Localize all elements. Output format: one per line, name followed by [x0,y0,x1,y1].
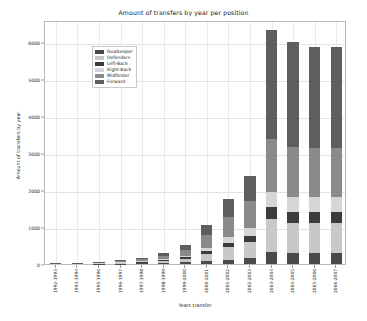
bar-segment[interactable] [244,242,255,258]
legend-label: Goalkeeper [107,49,133,55]
bar-segment[interactable] [158,263,169,264]
x-tick-mark [292,265,293,268]
bar-segment[interactable] [287,197,298,211]
bar[interactable] [136,258,147,264]
bar-segment[interactable] [331,223,342,253]
bar-segment[interactable] [136,259,147,261]
bar[interactable] [72,263,83,264]
bar-segment[interactable] [158,260,169,261]
bar-segment[interactable] [180,257,191,258]
legend-item[interactable]: Goalkeeper [95,49,133,55]
bar[interactable] [309,47,320,264]
bar-segment[interactable] [266,207,277,219]
bar[interactable] [244,176,255,264]
x-tick-mark [76,265,77,268]
x-tick-label: 1998-1999 [160,269,165,293]
bar-series-group [45,22,345,264]
bar-segment[interactable] [244,228,255,236]
bar-segment[interactable] [223,199,234,217]
bar[interactable] [158,253,169,264]
bar-segment[interactable] [266,192,277,208]
bar-segment[interactable] [331,197,342,211]
bar-segment[interactable] [201,261,212,264]
bar-segment[interactable] [201,254,212,261]
bar-segment[interactable] [331,253,342,264]
bar[interactable] [50,263,61,264]
bar-segment[interactable] [287,42,298,147]
bar-segment[interactable] [201,248,212,252]
bar-segment[interactable] [136,258,147,259]
bar-segment[interactable] [180,262,191,264]
bar-segment[interactable] [266,219,277,252]
x-tick-label: 2000-2001 [203,269,208,293]
bar-segment[interactable] [331,148,342,197]
legend-item[interactable]: Defenders [95,55,133,61]
legend-item[interactable]: Forward [95,79,133,85]
bar-segment[interactable] [180,259,191,263]
bar[interactable] [266,30,277,264]
bar-segment[interactable] [180,256,191,258]
bar-segment[interactable] [136,262,147,263]
bar-segment[interactable] [158,259,169,260]
bar-segment[interactable] [287,147,298,197]
bar[interactable] [115,260,126,264]
x-tick-label: 2006-2007 [333,269,338,293]
bar-segment[interactable] [136,263,147,264]
bar[interactable] [223,199,234,264]
bar-segment[interactable] [331,212,342,223]
bar-segment[interactable] [244,201,255,228]
bar-segment[interactable] [287,223,298,253]
bar-segment[interactable] [331,47,342,148]
bar-segment[interactable] [244,258,255,264]
x-tick-mark [120,265,121,268]
legend-item[interactable]: Midfielder [95,73,133,79]
bar-segment[interactable] [244,236,255,242]
legend-swatch-icon [95,62,104,66]
legend-swatch-icon [95,74,104,78]
bar-segment[interactable] [244,176,255,201]
bar-segment[interactable] [287,253,298,264]
x-tick-label: 1992-1993 [52,269,57,293]
bar-segment[interactable] [201,225,212,236]
x-tick-mark [163,265,164,268]
bar-segment[interactable] [223,243,234,247]
bar-segment[interactable] [266,139,277,192]
bar-segment[interactable] [180,245,191,250]
bar-segment[interactable] [93,263,104,264]
bar-segment[interactable] [115,260,126,261]
bar-segment[interactable] [223,260,234,264]
bar-segment[interactable] [158,256,169,259]
bar[interactable] [331,47,342,264]
bar-segment[interactable] [266,252,277,264]
legend-item[interactable]: Right-Back [95,67,133,73]
bar-segment[interactable] [266,30,277,139]
bar-segment[interactable] [158,261,169,263]
bar-segment[interactable] [201,235,212,247]
bar-segment[interactable] [309,223,320,253]
bar-segment[interactable] [136,261,147,262]
legend-item[interactable]: Left-Back [95,61,133,67]
bar-segment[interactable] [223,247,234,259]
y-axis: 0100020003000400050006000 [0,21,44,265]
bar-segment[interactable] [309,47,320,148]
x-tick-mark [227,265,228,268]
bar-segment[interactable] [201,251,212,254]
bar-segment[interactable] [93,262,104,263]
bar-segment[interactable] [287,212,298,223]
chart-title: Amount of transfers by year per position [0,9,367,16]
bar-segment[interactable] [115,263,126,264]
bar-segment[interactable] [158,253,169,256]
bar-segment[interactable] [309,197,320,211]
bar-segment[interactable] [223,217,234,237]
bar[interactable] [287,42,298,264]
bar[interactable] [201,225,212,264]
bar-segment[interactable] [115,261,126,262]
bar-segment[interactable] [223,237,234,243]
bar-segment[interactable] [309,148,320,197]
bar-segment[interactable] [93,262,104,263]
bar-segment[interactable] [309,212,320,223]
bar[interactable] [180,245,191,264]
bar[interactable] [93,262,104,265]
bar-segment[interactable] [180,250,191,256]
bar-segment[interactable] [309,253,320,264]
